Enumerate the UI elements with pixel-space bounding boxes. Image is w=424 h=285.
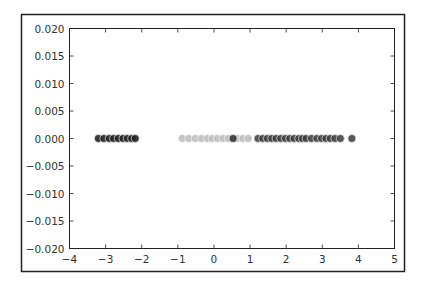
y-tick-label: 0.010 bbox=[34, 78, 64, 90]
y-tick-label: 0.015 bbox=[34, 50, 64, 62]
y-tick-label: 0.000 bbox=[34, 133, 64, 145]
x-tick-label: 0 bbox=[211, 253, 218, 265]
x-tick-label: 1 bbox=[247, 253, 254, 265]
data-point-cluster-middle-dark bbox=[229, 135, 237, 143]
data-point-cluster-middle-light bbox=[244, 135, 252, 143]
x-tick-label: 4 bbox=[355, 253, 362, 265]
scatter-points bbox=[94, 135, 356, 143]
y-tick-label: −0.015 bbox=[26, 215, 65, 227]
data-point-cluster-left bbox=[131, 135, 139, 143]
x-tick-label: 2 bbox=[283, 253, 290, 265]
x-tick-label: −2 bbox=[134, 253, 149, 265]
data-point-cluster-right bbox=[348, 135, 356, 143]
y-tick-label: 0.020 bbox=[34, 23, 64, 35]
x-tick-label: −3 bbox=[98, 253, 113, 265]
x-tick-label: −1 bbox=[170, 253, 185, 265]
data-point-cluster-right bbox=[336, 135, 344, 143]
x-tick-label: 5 bbox=[391, 253, 398, 265]
y-tick-label: −0.010 bbox=[26, 188, 65, 200]
y-tick-label: 0.005 bbox=[34, 105, 64, 117]
figure: −4−3−2−1012345 −0.020−0.015−0.010−0.0050… bbox=[0, 0, 424, 285]
y-tick-label: −0.005 bbox=[26, 160, 65, 172]
y-tick-label: −0.020 bbox=[26, 243, 65, 255]
x-tick-label: 3 bbox=[319, 253, 326, 265]
